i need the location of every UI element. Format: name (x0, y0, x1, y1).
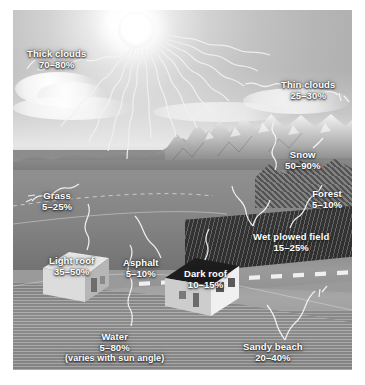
label-grass-name: Grass (43, 190, 70, 201)
label-forest-name: Forest (312, 188, 342, 199)
label-sandy-beach: Sandy beach 20–40% (243, 341, 303, 363)
label-wet-plowed-field-name: Wet plowed field (253, 231, 329, 242)
label-dark-roof-value: 10–15% (184, 279, 227, 290)
label-forest-value: 5–10% (312, 199, 342, 210)
label-light-roof-value: 35–50% (49, 266, 94, 277)
label-sandy-beach-name: Sandy beach (243, 341, 303, 352)
label-snow-value: 50–90% (285, 160, 320, 171)
label-light-roof: Light roof 35–50% (49, 255, 94, 277)
label-grass: Grass 5–25% (42, 190, 72, 212)
label-light-roof-name: Light roof (49, 255, 94, 266)
albedo-illustration: Thick clouds 70–80% Thin clouds 25–30% S… (13, 10, 352, 370)
label-dark-roof: Dark roof 10–15% (184, 268, 227, 290)
label-thin-clouds: Thin clouds 25–30% (281, 79, 335, 101)
label-grass-value: 5–25% (42, 201, 72, 212)
label-snow-name: Snow (290, 149, 316, 160)
label-sandy-beach-value: 20–40% (243, 352, 303, 363)
label-thick-clouds: Thick clouds 70–80% (27, 48, 86, 70)
label-thin-clouds-value: 25–30% (281, 90, 335, 101)
label-water: Water 5–80% (varies with sun angle) (65, 331, 164, 364)
label-forest: Forest 5–10% (312, 188, 342, 210)
label-snow: Snow 50–90% (285, 149, 320, 171)
label-wet-plowed-field: Wet plowed field 15–25% (253, 231, 329, 253)
label-asphalt-value: 5–10% (123, 268, 159, 279)
label-thick-clouds-value: 70–80% (27, 59, 86, 70)
label-thick-clouds-name: Thick clouds (27, 48, 86, 59)
label-water-name: Water (101, 331, 128, 342)
label-water-value: 5–80% (65, 342, 164, 353)
label-asphalt: Asphalt 5–10% (123, 257, 159, 279)
label-wet-plowed-field-value: 15–25% (253, 242, 329, 253)
label-thin-clouds-name: Thin clouds (281, 79, 335, 90)
label-asphalt-name: Asphalt (123, 257, 159, 268)
label-water-note: (varies with sun angle) (65, 353, 164, 364)
label-dark-roof-name: Dark roof (184, 268, 227, 279)
